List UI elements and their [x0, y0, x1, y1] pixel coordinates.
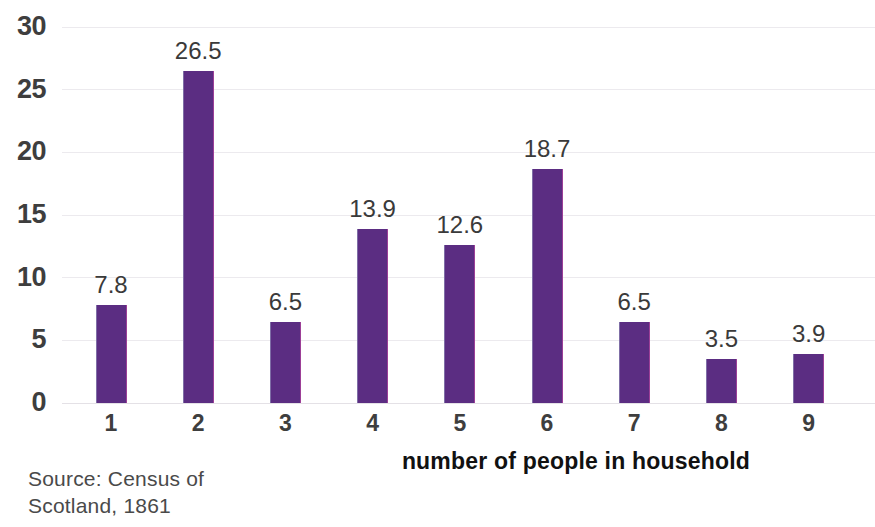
x-axis-tick-label: 4 [333, 412, 413, 435]
y-axis-tick-label: 25 [0, 76, 46, 103]
source-note: Source: Census of Scotland, 1861 [28, 466, 288, 520]
x-axis-tick-label: 8 [681, 412, 761, 435]
bar-value-label: 6.5 [584, 290, 684, 314]
bar[interactable] [183, 71, 214, 403]
y-axis-tick-label: 0 [0, 389, 46, 416]
bar[interactable] [793, 354, 824, 403]
x-axis-tick-label: 6 [507, 412, 587, 435]
bar-value-label: 18.7 [497, 137, 597, 161]
x-axis-tick-label: 2 [158, 412, 238, 435]
bar[interactable] [357, 229, 388, 403]
y-axis-tick-label: 20 [0, 138, 46, 165]
bar[interactable] [619, 322, 650, 403]
bar-chart: 051015202530 7.826.56.513.912.618.76.53.… [0, 0, 875, 527]
bar-value-label: 26.5 [148, 39, 248, 63]
plot-area: 051015202530 7.826.56.513.912.618.76.53.… [0, 0, 875, 527]
y-axis-tick-label: 30 [0, 13, 46, 40]
x-axis-tick-label: 9 [769, 412, 849, 435]
bar-value-label: 12.6 [410, 213, 510, 237]
x-axis-tick-label: 7 [594, 412, 674, 435]
bar[interactable] [706, 359, 737, 403]
bar[interactable] [270, 322, 301, 403]
y-axis-tick-label: 10 [0, 264, 46, 291]
bar[interactable] [532, 169, 563, 403]
x-axis-tick-label: 1 [71, 412, 151, 435]
bar-value-label: 3.9 [759, 322, 859, 346]
x-axis-title: number of people in household [316, 449, 836, 474]
bar-value-label: 7.8 [61, 273, 161, 297]
source-note-line-2: Scotland, 1861 [28, 493, 288, 520]
source-note-line-1: Source: Census of [28, 466, 288, 493]
x-axis-tick-label: 5 [420, 412, 500, 435]
bar[interactable] [444, 245, 475, 403]
gridline-30 [62, 27, 875, 28]
y-axis-tick-label: 15 [0, 201, 46, 228]
x-axis-tick-label: 3 [245, 412, 325, 435]
bar-value-label: 13.9 [323, 197, 423, 221]
bar-value-label: 6.5 [235, 290, 335, 314]
bar[interactable] [96, 305, 127, 403]
bar-value-label: 3.5 [671, 327, 771, 351]
y-axis-tick-label: 5 [0, 326, 46, 353]
